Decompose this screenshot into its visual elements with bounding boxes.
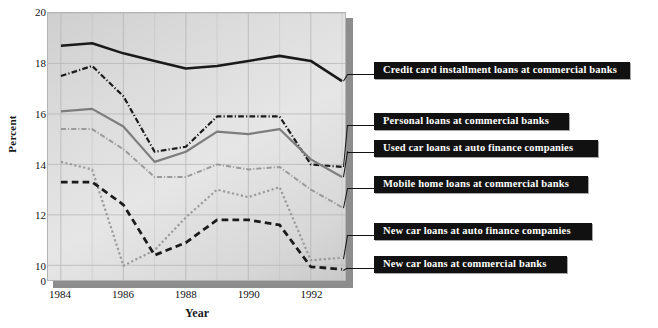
chart-figure: Percent 0101214161820 198419861988199019… xyxy=(0,0,658,328)
leader-hook-5 xyxy=(343,268,347,271)
callout-label: New car loans at auto finance companies xyxy=(383,225,571,236)
leader-hook-3 xyxy=(343,188,348,208)
callout-new-car-loans-commercial-banks[interactable]: New car loans at commercial banks xyxy=(374,256,567,273)
callout-label: New car loans at commercial banks xyxy=(383,258,547,269)
leader-line-3 xyxy=(347,188,374,189)
callout-credit-card-installment-loans[interactable]: Credit card installment loans at commerc… xyxy=(374,62,630,79)
leader-line-1 xyxy=(347,125,374,126)
callout-mobile-home-loans[interactable]: Mobile home loans at commercial banks xyxy=(374,176,588,193)
callout-personal-loans[interactable]: Personal loans at commercial banks xyxy=(374,113,569,130)
leader-line-2 xyxy=(347,152,374,153)
leader-hook-0 xyxy=(343,74,348,81)
leader-line-5 xyxy=(347,268,374,269)
callout-new-car-loans-auto-finance[interactable]: New car loans at auto finance companies xyxy=(374,223,592,240)
callout-label: Credit card installment loans at commerc… xyxy=(383,64,617,75)
callout-label: Used car loans at auto finance companies xyxy=(383,142,573,153)
leader-hook-4 xyxy=(343,235,348,259)
callout-used-car-loans-auto-finance[interactable]: Used car loans at auto finance companies xyxy=(374,140,598,157)
callout-label: Mobile home loans at commercial banks xyxy=(383,178,569,189)
leader-line-4 xyxy=(347,235,374,236)
callout-group: Credit card installment loans at commerc… xyxy=(0,0,658,328)
leader-line-0 xyxy=(347,74,374,75)
callout-label: Personal loans at commercial banks xyxy=(383,115,549,126)
